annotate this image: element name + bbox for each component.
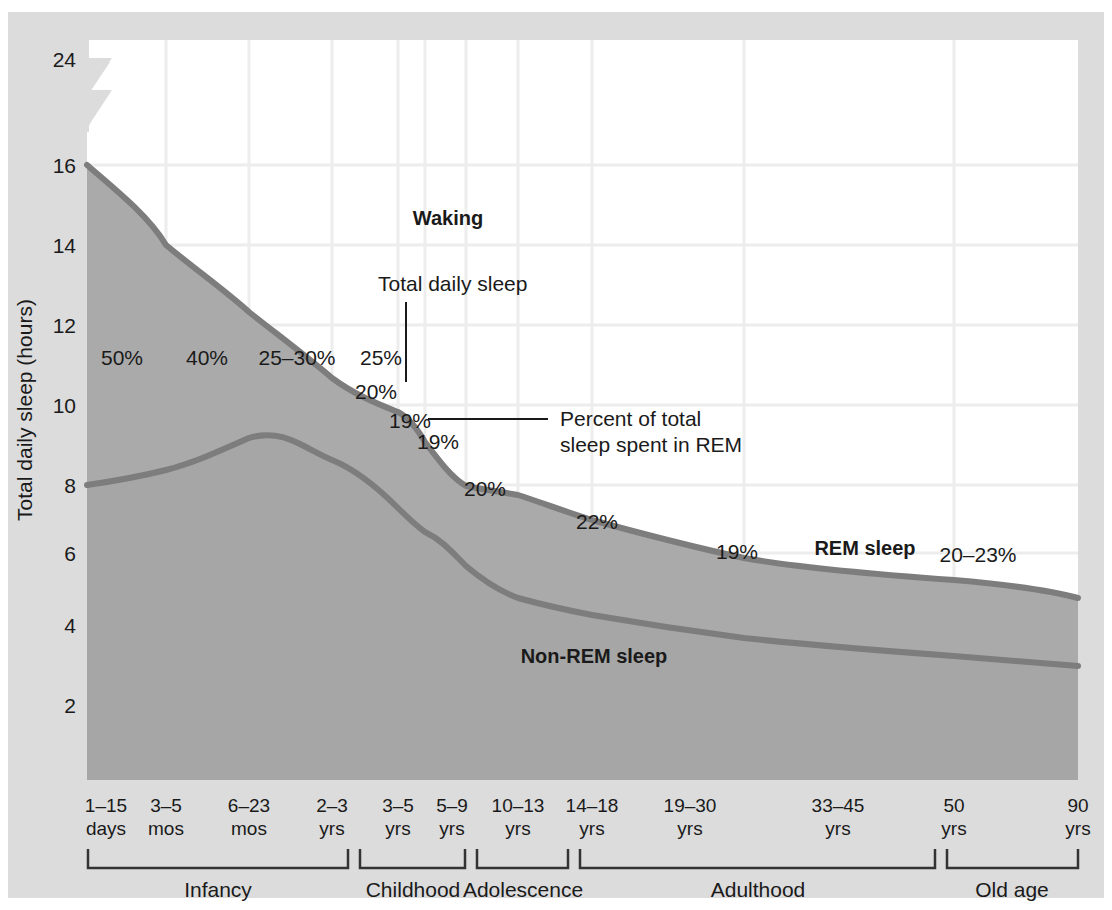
x-tick-7-bottom: yrs xyxy=(579,818,604,839)
x-tick-0-bottom: days xyxy=(86,818,126,839)
x-tick-10-top: 50 xyxy=(943,795,964,816)
rem-sleep-region-label: REM sleep xyxy=(814,537,915,559)
x-tick-5-top: 5–9 xyxy=(436,795,468,816)
rem-pct-8: 22% xyxy=(576,510,618,533)
y-tick-12: 12 xyxy=(53,314,76,337)
x-tick-8-bottom: yrs xyxy=(677,818,702,839)
x-tick-6-top: 10–13 xyxy=(492,795,545,816)
x-tick-2-bottom: mos xyxy=(231,818,267,839)
y-tick-8: 8 xyxy=(64,474,76,497)
sleep-across-lifespan-figure: 24 16 14 12 10 8 6 4 2 Total daily sleep… xyxy=(0,0,1112,910)
x-tick-5-bottom: yrs xyxy=(439,818,464,839)
rem-pct-9: 19% xyxy=(716,540,758,563)
y-axis-ticks: 24 16 14 12 10 8 6 4 2 xyxy=(53,48,77,717)
rem-pct-3: 25% xyxy=(360,346,402,369)
x-tick-11-bottom: yrs xyxy=(1065,818,1090,839)
chart-svg: 24 16 14 12 10 8 6 4 2 Total daily sleep… xyxy=(0,0,1112,910)
rem-pct-10: 20–23% xyxy=(939,543,1016,566)
bracket-old-age xyxy=(947,849,1078,868)
x-tick-8-top: 19–30 xyxy=(664,795,717,816)
rem-pct-0: 50% xyxy=(101,346,143,369)
x-tick-0-top: 1–15 xyxy=(85,795,127,816)
stage-label-old-age: Old age xyxy=(975,878,1049,901)
y-axis-title: Total daily sleep (hours) xyxy=(13,299,36,521)
rem-pct-5: 19% xyxy=(389,409,431,432)
x-tick-4-top: 3–5 xyxy=(382,795,414,816)
stage-label-childhood: Childhood xyxy=(366,878,461,901)
y-tick-10: 10 xyxy=(53,394,76,417)
life-stage-brackets xyxy=(88,849,1078,868)
total-daily-sleep-callout-text: Total daily sleep xyxy=(378,272,527,295)
y-tick-24: 24 xyxy=(53,48,77,71)
rem-pct-6: 19% xyxy=(417,430,459,453)
y-tick-2: 2 xyxy=(64,694,76,717)
x-axis-ticks: 1–15 days 3–5 mos 6–23 mos 2–3 yrs 3–5 y… xyxy=(85,795,1091,839)
waking-region-label: Waking xyxy=(413,207,483,229)
x-tick-11-top: 90 xyxy=(1067,795,1088,816)
bracket-adolescence xyxy=(477,849,568,868)
stage-label-adolescence: Adolescence xyxy=(463,878,583,901)
y-tick-6: 6 xyxy=(64,542,76,565)
rem-percent-callout-line2: sleep spent in REM xyxy=(560,433,742,456)
x-tick-3-top: 2–3 xyxy=(316,795,348,816)
bracket-adulthood xyxy=(580,849,935,868)
x-tick-2-top: 6–23 xyxy=(228,795,270,816)
x-tick-3-bottom: yrs xyxy=(319,818,344,839)
stage-label-infancy: Infancy xyxy=(184,878,252,901)
x-tick-6-bottom: yrs xyxy=(505,818,530,839)
rem-pct-2: 25–30% xyxy=(258,346,335,369)
x-tick-4-bottom: yrs xyxy=(385,818,410,839)
stage-label-adulthood: Adulthood xyxy=(711,878,806,901)
y-tick-16: 16 xyxy=(53,154,76,177)
x-tick-7-top: 14–18 xyxy=(566,795,619,816)
y-tick-4: 4 xyxy=(64,614,76,637)
x-tick-1-top: 3–5 xyxy=(150,795,182,816)
non-rem-sleep-region-label: Non-REM sleep xyxy=(521,645,668,667)
bracket-infancy xyxy=(88,849,348,868)
x-tick-9-top: 33–45 xyxy=(812,795,865,816)
rem-pct-1: 40% xyxy=(186,346,228,369)
rem-pct-7: 20% xyxy=(464,477,506,500)
bracket-childhood xyxy=(360,849,465,868)
x-tick-9-bottom: yrs xyxy=(825,818,850,839)
x-tick-10-bottom: yrs xyxy=(941,818,966,839)
y-tick-14: 14 xyxy=(53,234,77,257)
life-stage-labels: Infancy Childhood Adolescence Adulthood … xyxy=(184,878,1049,901)
x-tick-1-bottom: mos xyxy=(148,818,184,839)
rem-pct-4: 20% xyxy=(355,380,397,403)
rem-percent-callout-line1: Percent of total xyxy=(560,407,701,430)
